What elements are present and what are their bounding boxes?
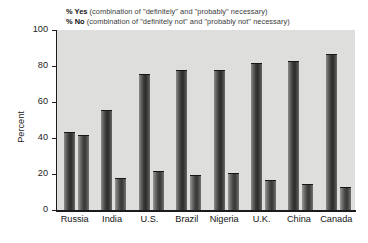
chart-figure: % Yes (combination of "definitely" and "… [0, 0, 368, 243]
x-tick-label: Canada [310, 214, 363, 224]
legend-desc-no: (combination of "definitely not" and "pr… [85, 17, 290, 26]
bar-group [323, 30, 360, 210]
plot-area [56, 30, 355, 210]
bar-group [136, 30, 173, 210]
bar-group [173, 30, 210, 210]
y-tick-label: 60 [22, 96, 48, 106]
bar-no [340, 187, 351, 210]
bar-group [211, 30, 248, 210]
bar-yes [139, 74, 150, 210]
bar-no [228, 173, 239, 210]
bar-yes [214, 70, 225, 210]
legend-key-yes: % Yes [66, 7, 87, 16]
bar-no [265, 180, 276, 210]
bar-group [61, 30, 98, 210]
y-tick-label: 0 [22, 204, 48, 214]
y-tick-label: 20 [22, 168, 48, 178]
bar-yes [101, 110, 112, 210]
bar-yes [251, 63, 262, 210]
bar-no [190, 175, 201, 210]
bar-no [115, 178, 126, 210]
bar-group [285, 30, 322, 210]
y-axis-title: Percent [16, 97, 26, 157]
bar-yes [288, 61, 299, 210]
bar-yes [176, 70, 187, 210]
bar-yes [64, 132, 75, 210]
y-tick-label: 100 [22, 24, 48, 34]
legend-key-no: % No [66, 17, 85, 26]
legend-item-yes: % Yes (combination of "definitely" and "… [66, 7, 366, 17]
bar-no [153, 171, 164, 210]
bar-no [302, 184, 313, 210]
y-tick-label: 40 [22, 132, 48, 142]
bar-series-container [57, 30, 355, 210]
bar-group [98, 30, 135, 210]
bar-yes [326, 54, 337, 210]
legend-item-no: % No (combination of "definitely not" an… [66, 17, 366, 27]
y-tick-label: 80 [22, 60, 48, 70]
bar-no [78, 135, 89, 210]
bar-group [248, 30, 285, 210]
x-axis-line [56, 210, 356, 212]
legend: % Yes (combination of "definitely" and "… [66, 7, 366, 27]
legend-desc-yes: (combination of "definitely" and "probab… [87, 7, 267, 16]
